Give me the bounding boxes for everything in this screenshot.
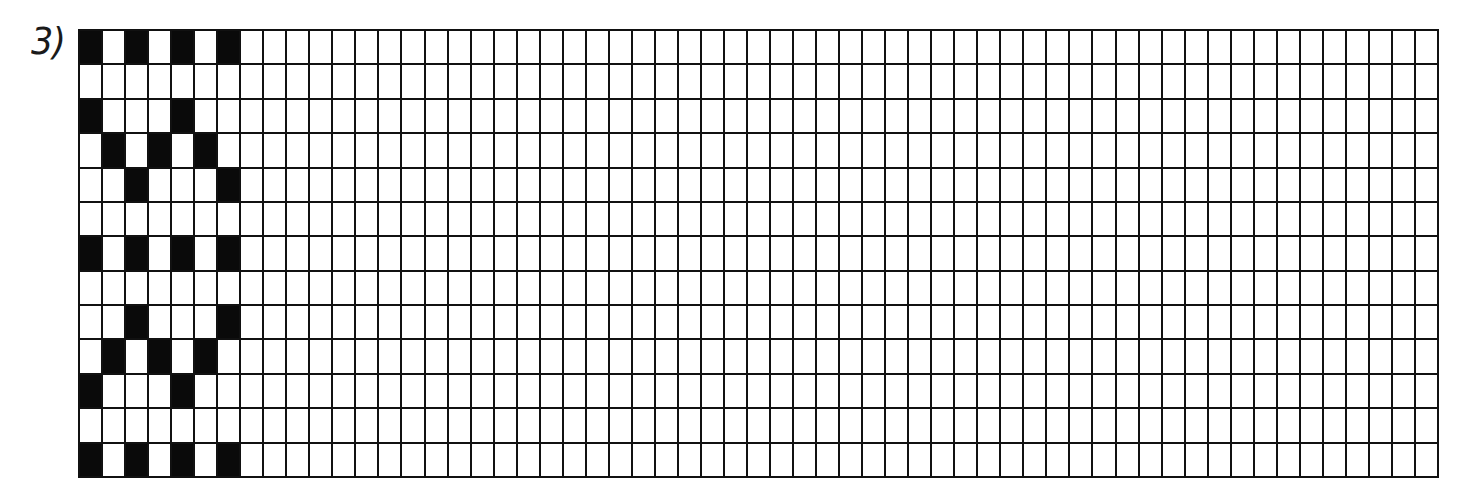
grid-cell-empty[interactable] [472,31,495,65]
grid-cell-empty[interactable] [1393,169,1416,203]
grid-cell-empty[interactable] [495,31,518,65]
grid-cell-empty[interactable] [541,31,564,65]
grid-cell-empty[interactable] [149,237,172,271]
grid-cell-empty[interactable] [149,65,172,99]
grid-cell-filled[interactable] [80,444,103,478]
grid-cell-empty[interactable] [1370,272,1393,306]
grid-cell-empty[interactable] [195,100,218,134]
grid-cell-empty[interactable] [1140,444,1163,478]
grid-cell-empty[interactable] [932,203,955,237]
grid-cell-empty[interactable] [771,65,794,99]
grid-cell-empty[interactable] [1001,134,1024,168]
grid-cell-empty[interactable] [241,169,264,203]
grid-cell-empty[interactable] [1416,340,1439,374]
grid-cell-empty[interactable] [1416,100,1439,134]
grid-cell-empty[interactable] [564,100,587,134]
grid-cell-empty[interactable] [1209,134,1232,168]
grid-cell-empty[interactable] [1093,340,1116,374]
grid-cell-empty[interactable] [725,444,748,478]
grid-cell-empty[interactable] [472,237,495,271]
grid-cell-empty[interactable] [518,65,541,99]
grid-cell-empty[interactable] [264,409,287,443]
grid-cell-empty[interactable] [886,237,909,271]
grid-cell-empty[interactable] [656,100,679,134]
grid-cell-empty[interactable] [978,65,1001,99]
grid-cell-filled[interactable] [80,31,103,65]
grid-cell-empty[interactable] [518,203,541,237]
grid-cell-empty[interactable] [1093,237,1116,271]
grid-cell-empty[interactable] [541,134,564,168]
grid-cell-empty[interactable] [955,203,978,237]
grid-cell-empty[interactable] [472,100,495,134]
grid-cell-empty[interactable] [218,100,241,134]
grid-cell-empty[interactable] [817,340,840,374]
grid-cell-empty[interactable] [449,169,472,203]
grid-cell-empty[interactable] [541,100,564,134]
grid-cell-empty[interactable] [633,340,656,374]
grid-cell-empty[interactable] [103,31,126,65]
grid-cell-empty[interactable] [1093,375,1116,409]
grid-cell-empty[interactable] [1255,100,1278,134]
grid-cell-empty[interactable] [794,306,817,340]
grid-cell-empty[interactable] [287,375,310,409]
grid-cell-empty[interactable] [1001,340,1024,374]
grid-cell-empty[interactable] [886,31,909,65]
grid-cell-empty[interactable] [333,100,356,134]
grid-cell-empty[interactable] [1070,306,1093,340]
grid-cell-empty[interactable] [1301,100,1324,134]
grid-cell-empty[interactable] [610,444,633,478]
grid-cell-empty[interactable] [449,65,472,99]
grid-cell-empty[interactable] [794,409,817,443]
grid-cell-empty[interactable] [633,409,656,443]
grid-cell-empty[interactable] [495,169,518,203]
grid-cell-empty[interactable] [1255,444,1278,478]
grid-cell-empty[interactable] [702,31,725,65]
grid-cell-empty[interactable] [518,237,541,271]
grid-cell-empty[interactable] [495,237,518,271]
grid-cell-empty[interactable] [402,375,425,409]
grid-cell-empty[interactable] [518,134,541,168]
grid-cell-empty[interactable] [241,65,264,99]
grid-cell-empty[interactable] [909,237,932,271]
grid-cell-empty[interactable] [1370,409,1393,443]
grid-cell-empty[interactable] [1324,203,1347,237]
grid-cell-empty[interactable] [1416,169,1439,203]
grid-cell-empty[interactable] [1070,134,1093,168]
grid-cell-empty[interactable] [149,444,172,478]
grid-cell-empty[interactable] [1370,169,1393,203]
grid-cell-empty[interactable] [172,409,195,443]
grid-cell-empty[interactable] [978,375,1001,409]
grid-cell-empty[interactable] [333,375,356,409]
grid-cell-empty[interactable] [955,31,978,65]
pattern-grid[interactable] [78,29,1439,478]
grid-cell-empty[interactable] [449,31,472,65]
grid-cell-empty[interactable] [1347,134,1370,168]
grid-cell-empty[interactable] [1255,306,1278,340]
grid-cell-empty[interactable] [449,444,472,478]
grid-cell-empty[interactable] [794,65,817,99]
grid-cell-empty[interactable] [241,340,264,374]
grid-cell-empty[interactable] [1347,272,1370,306]
grid-cell-empty[interactable] [426,203,449,237]
grid-cell-empty[interactable] [379,169,402,203]
grid-cell-empty[interactable] [1117,100,1140,134]
grid-cell-empty[interactable] [80,169,103,203]
grid-cell-empty[interactable] [1209,272,1232,306]
grid-cell-empty[interactable] [1001,169,1024,203]
grid-cell-empty[interactable] [1070,100,1093,134]
grid-cell-empty[interactable] [264,31,287,65]
grid-cell-empty[interactable] [449,134,472,168]
grid-cell-empty[interactable] [1255,134,1278,168]
grid-cell-empty[interactable] [310,31,333,65]
grid-cell-empty[interactable] [1093,65,1116,99]
grid-cell-empty[interactable] [1416,409,1439,443]
grid-cell-empty[interactable] [1047,31,1070,65]
grid-cell-empty[interactable] [840,340,863,374]
grid-cell-empty[interactable] [840,169,863,203]
grid-cell-empty[interactable] [495,340,518,374]
grid-cell-empty[interactable] [1140,340,1163,374]
grid-cell-empty[interactable] [1117,65,1140,99]
grid-cell-empty[interactable] [1093,31,1116,65]
grid-cell-empty[interactable] [80,306,103,340]
grid-cell-empty[interactable] [518,340,541,374]
